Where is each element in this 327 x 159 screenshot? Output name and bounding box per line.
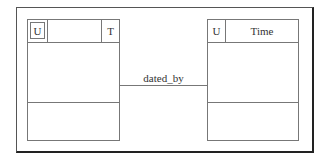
unique-marker-cell: U	[28, 20, 48, 42]
unique-marker: U	[208, 20, 226, 42]
type-marker: T	[101, 20, 119, 42]
unique-marker: U	[30, 22, 45, 39]
entity-box-left[interactable]: U T	[27, 19, 120, 141]
entity-name: Time	[226, 20, 298, 42]
entity-divider	[208, 102, 298, 103]
relationship-label: dated_by	[120, 72, 207, 84]
relationship-line[interactable]	[120, 85, 207, 86]
entity-box-time[interactable]: U Time	[207, 19, 299, 141]
entity-divider	[28, 102, 119, 103]
